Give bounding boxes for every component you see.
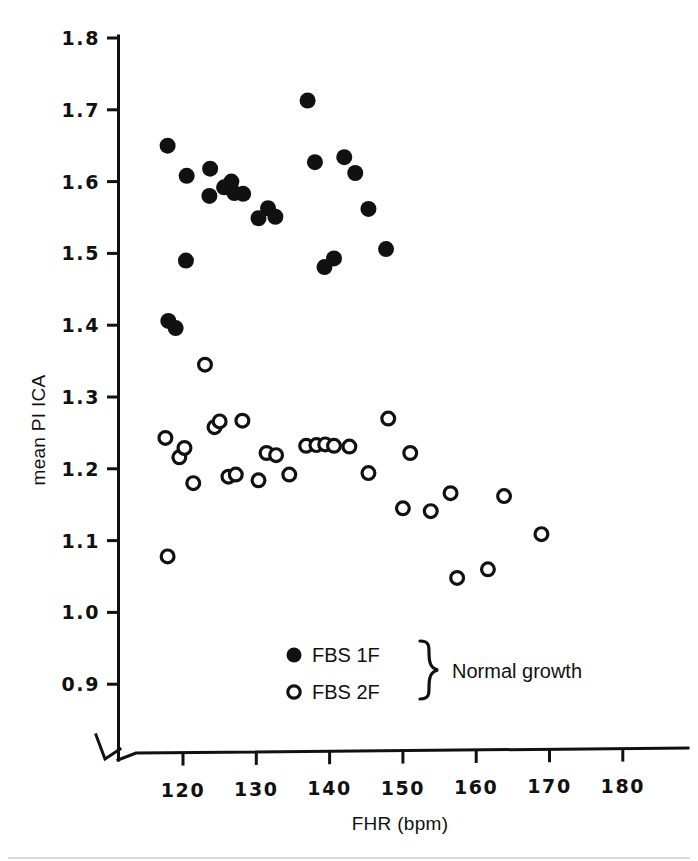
data-point [179,168,195,184]
data-point [159,432,172,445]
y-axis-title: mean PI ICA [28,374,49,485]
legend-marker-filled-circle [287,648,302,663]
data-point [252,474,265,487]
legend-label-fbs-2f: FBS 2F [312,681,380,703]
data-point [328,439,341,452]
data-point [229,468,242,481]
data-point [267,209,283,225]
x-tick-label: 130 [234,778,278,800]
series-fbs-2f [159,358,548,584]
x-tick-label: 120 [161,779,205,801]
data-point [482,563,495,576]
data-point [199,358,212,371]
y-tick-label: 1.6 [62,171,100,193]
data-point [535,528,548,541]
y-tick-label: 1.7 [62,99,100,121]
data-point [451,572,464,585]
figure-container: 0.91.01.11.21.31.41.51.61.71.8 120130140… [0,0,698,861]
x-axis-ticks: 120130140150160170180 [161,749,645,801]
y-tick-label: 1.4 [62,314,100,336]
data-point [235,186,251,202]
y-tick-label: 1.1 [62,530,100,552]
x-tick-label: 180 [601,775,645,797]
legend: FBS 1F FBS 2F Normal growth [287,641,583,703]
data-point [326,250,342,266]
legend-marker-open-circle [288,686,300,698]
data-point [187,477,200,490]
y-tick-label: 1.2 [62,458,100,480]
data-point [270,449,283,462]
data-point [213,415,226,428]
data-point [168,320,184,336]
data-point [300,92,316,108]
y-tick-label: 1.3 [62,386,100,408]
data-point [343,440,356,453]
data-point [382,412,395,425]
data-point [336,149,352,165]
data-point [307,154,323,170]
y-tick-label: 1.8 [62,27,100,49]
data-point [498,490,511,503]
axis-break-mark [96,735,120,759]
data-point [360,201,376,217]
data-point [160,138,176,154]
data-point [347,165,363,181]
data-point [424,505,437,518]
data-point [236,414,249,427]
y-tick-label: 1.0 [62,601,100,623]
data-point [178,253,194,269]
x-axis-title: FHR (bpm) [352,813,449,834]
data-point [404,447,417,460]
legend-group-label: Normal growth [452,660,582,682]
data-point [161,550,174,563]
scatter-plot: 0.91.01.11.21.31.41.51.61.71.8 120130140… [0,0,698,861]
data-point [362,467,375,480]
y-tick-label: 1.5 [62,242,100,264]
series-fbs-1f [160,92,394,336]
x-tick-label: 140 [307,777,351,799]
x-tick-label: 170 [527,775,571,797]
data-point [283,468,296,481]
x-tick-label: 160 [454,776,498,798]
data-point [202,161,218,177]
data-point [201,188,217,204]
y-tick-label: 0.9 [62,673,100,695]
data-point [444,487,457,500]
legend-brace [420,641,438,699]
x-tick-label: 150 [381,777,425,799]
y-axis-ticks: 0.91.01.11.21.31.41.51.61.71.8 [62,27,119,695]
data-point [397,502,410,515]
data-point [378,241,394,257]
data-point [178,442,191,455]
legend-label-fbs-1f: FBS 1F [312,644,380,666]
